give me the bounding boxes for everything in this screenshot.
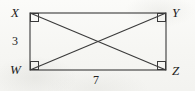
side-length-horizontal: 7 [93,74,99,86]
side-length-vertical: 3 [12,35,18,47]
vertex-label-z: Z [172,64,179,77]
vertex-label-y: Y [172,6,179,19]
vertex-label-x: X [11,6,19,19]
vertex-label-w: W [10,63,21,76]
geometry-figure: X Y W Z 3 7 [0,0,195,91]
